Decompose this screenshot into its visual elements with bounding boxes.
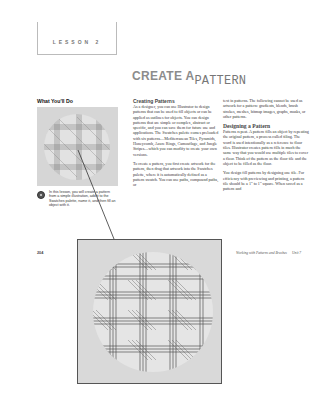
lesson-box: LESSON 2 xyxy=(37,22,117,55)
creating-patterns-column: Creating Patterns As a designer, you can… xyxy=(133,98,219,191)
running-title: Working with Patterns and Brushes xyxy=(236,251,287,255)
column3-paragraph-3: You design fill patterns by designing on… xyxy=(223,170,309,191)
column3-paragraph-1: text in patterns. The following cannot b… xyxy=(223,98,309,119)
lesson-caption: In this lesson, you will create a patter… xyxy=(49,190,117,208)
plaid-circle-thumbnail-image xyxy=(37,107,118,186)
enlarged-pattern-image xyxy=(77,239,222,384)
title-part-1: CREATE A xyxy=(132,69,194,83)
running-footer: Working with Patterns and BrushesUnit 7 xyxy=(236,251,301,255)
creating-patterns-paragraph-1: As a designer, you can use Illustrator t… xyxy=(133,104,219,157)
plaid-circle-enlarged-image xyxy=(78,240,222,384)
title-part-2: PATTERN xyxy=(194,74,246,88)
unit-label: Unit 7 xyxy=(292,251,301,255)
creating-patterns-paragraph-2: To create a pattern, you first create ar… xyxy=(133,161,219,187)
designing-pattern-column: text in patterns. The following cannot b… xyxy=(223,98,309,195)
page-number: 204 xyxy=(37,251,43,255)
column3-paragraph-2: Patterns repeat. A pattern fills an obje… xyxy=(223,129,309,166)
lesson-label: LESSON 2 xyxy=(38,39,116,45)
what-youll-do-heading: What You'll Do xyxy=(37,98,73,104)
pattern-thumbnail xyxy=(37,107,118,186)
page-title: CREATE APATTERN xyxy=(132,66,246,84)
target-bullet-icon xyxy=(37,191,45,199)
